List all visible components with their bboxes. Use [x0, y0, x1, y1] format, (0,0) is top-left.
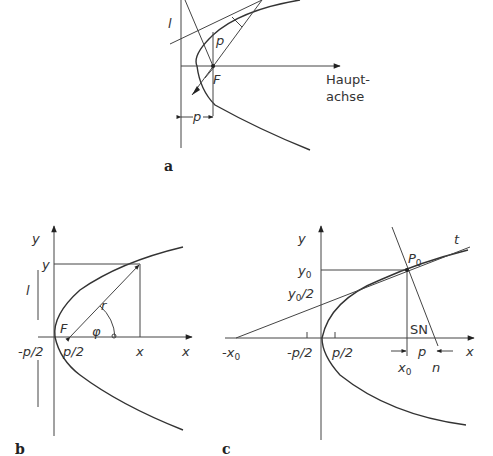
label-t: t — [454, 232, 460, 247]
parabola-curve — [55, 247, 183, 430]
label-achse: achse — [326, 89, 364, 104]
figure-a: l p F Haupt- achse p a — [164, 0, 370, 174]
caption-c: c — [222, 441, 231, 456]
label-focus: F — [60, 321, 68, 336]
label-y0-half: y0/2 — [287, 286, 314, 303]
label-neg-half-p: -p/2 — [287, 345, 313, 360]
label-x-axis: x — [181, 344, 190, 359]
tangent-line — [236, 247, 470, 338]
label-p0: P0 — [408, 251, 422, 268]
arrow-icon — [192, 86, 200, 95]
label-x-value: x — [135, 344, 144, 359]
label-n: n — [432, 360, 440, 375]
label-focus: F — [213, 72, 221, 87]
label-dim-p: p — [192, 109, 201, 124]
label-p: p — [417, 344, 426, 359]
label-l: l — [168, 16, 172, 31]
label-y-value: y — [41, 257, 50, 272]
focus-point — [211, 64, 215, 68]
point-p0 — [405, 268, 409, 272]
label-r: r — [101, 298, 108, 313]
label-l: l — [26, 283, 30, 298]
label-haupt: Haupt- — [326, 72, 370, 87]
label-x-axis: x — [465, 344, 474, 359]
caption-a: a — [164, 158, 173, 174]
label-y-axis: y — [31, 231, 40, 246]
label-x0: x0 — [397, 360, 412, 377]
label-y-axis: y — [297, 231, 306, 246]
label-y0: y0 — [297, 263, 312, 280]
caption-b: b — [15, 441, 25, 456]
figure-c: y t P0 y0 y0/2 SN -x0 -p/2 p/2 p x x0 n … — [222, 226, 474, 456]
label-subnormal: SN — [410, 322, 428, 337]
reflected-ray — [185, 0, 213, 66]
label-p: p — [215, 33, 224, 48]
label-half-p: p/2 — [331, 345, 353, 360]
label-half-p: p/2 — [62, 344, 84, 359]
parabola-figures: l p F Haupt- achse p a y y l r φ F -p/2 … — [0, 0, 493, 456]
label-neg-half-p: -p/2 — [18, 344, 44, 359]
label-neg-x0: -x0 — [222, 345, 240, 362]
label-phi: φ — [92, 324, 101, 339]
figure-b: y y l r φ F -p/2 p/2 x x b — [15, 226, 192, 456]
